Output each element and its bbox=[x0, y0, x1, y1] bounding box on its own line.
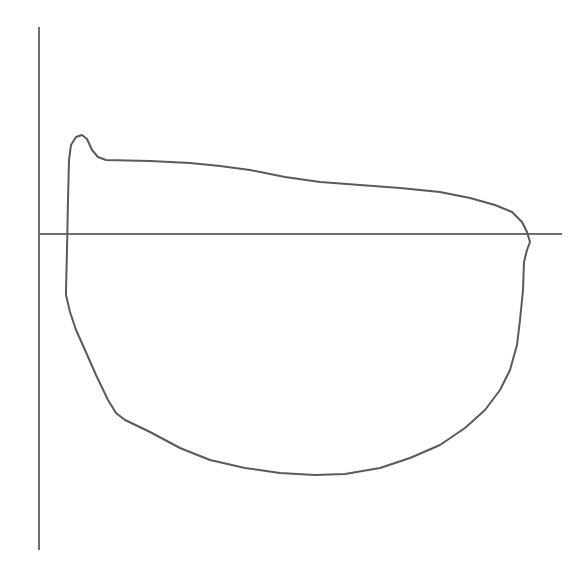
loop-diagram bbox=[0, 0, 584, 580]
background bbox=[0, 0, 584, 580]
